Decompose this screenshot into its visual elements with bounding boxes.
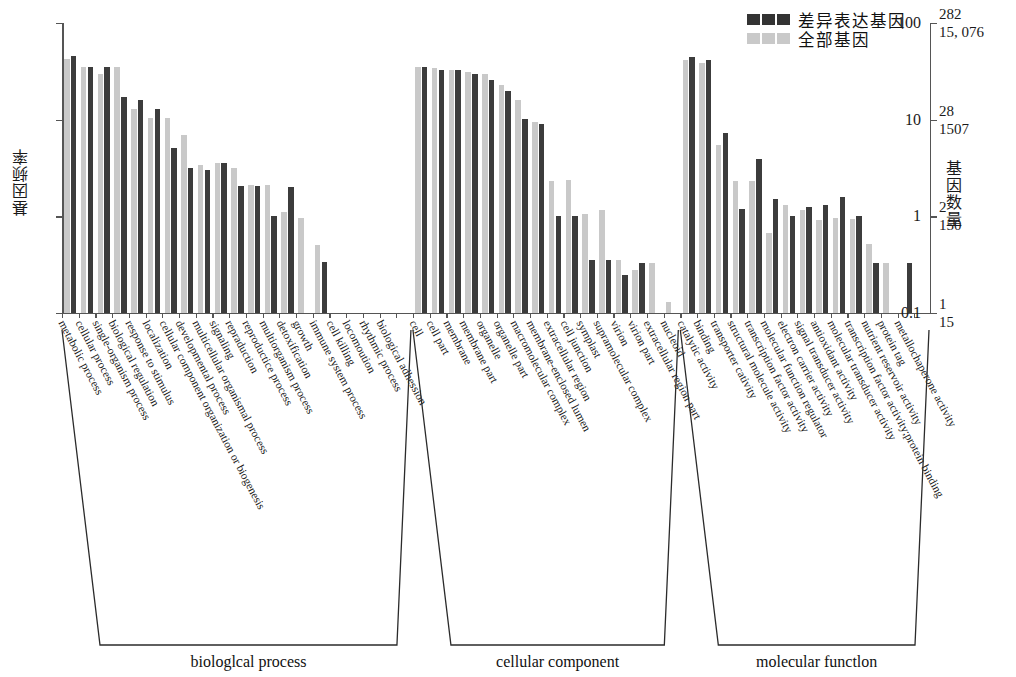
section-label: biologlcal process [190, 653, 306, 671]
section-label: molecular functlon [756, 653, 877, 671]
section-label: cellular component [496, 653, 619, 671]
x-axis-category-labels: metabolic processcellular processsingle-… [0, 0, 1016, 677]
x-axis-label: cell [408, 318, 426, 338]
go-annotation-chart: 差异表达基因 全部基因 1001010.1 28215, 07628150721… [0, 0, 1016, 677]
